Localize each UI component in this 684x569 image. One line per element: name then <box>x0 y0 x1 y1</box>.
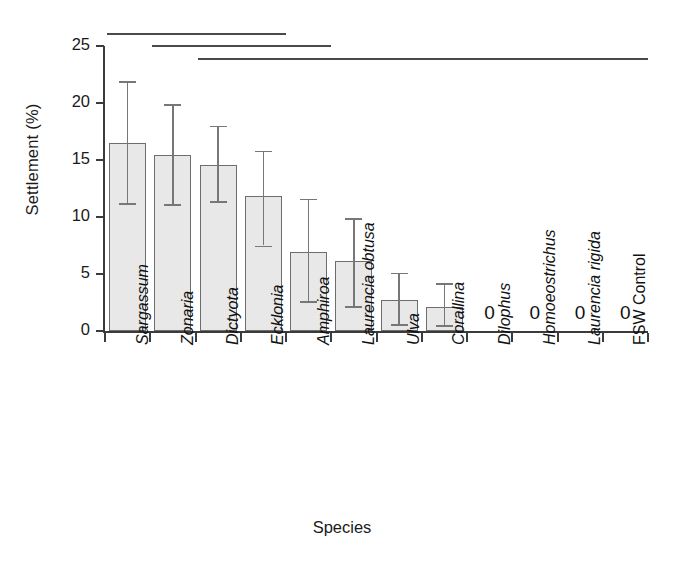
y-axis-title: Settlement (%) <box>23 50 42 270</box>
y-tick-label: 10 <box>56 206 90 225</box>
error-bar-cap-upper <box>119 81 136 83</box>
error-bar-cap-upper <box>210 126 227 128</box>
error-bar-cap-lower <box>255 246 272 248</box>
x-tick-label: FSW Control <box>631 253 649 345</box>
x-tick-label: Corallina <box>450 282 468 345</box>
error-bar-cap-upper <box>300 199 317 201</box>
error-bar-line <box>127 81 129 203</box>
y-tick-label: 20 <box>56 92 90 111</box>
error-bar-cap-upper <box>255 151 272 153</box>
error-bar-cap-upper <box>345 218 362 220</box>
x-tick-label: Ecklonia <box>269 285 287 345</box>
error-bar-cap-upper <box>391 273 408 275</box>
significance-line <box>107 33 286 35</box>
y-tick-label: 5 <box>56 263 90 282</box>
x-tick <box>104 333 106 342</box>
y-tick-label: 15 <box>56 149 90 168</box>
y-tick <box>96 273 104 275</box>
x-tick-label: Dictyota <box>224 287 242 345</box>
error-bar-cap-lower <box>164 204 181 206</box>
x-tick-label: Sargassum <box>134 264 152 345</box>
y-tick <box>96 45 104 47</box>
y-tick <box>96 330 104 332</box>
error-bar-line <box>217 126 219 201</box>
error-bar-line <box>353 218 355 306</box>
x-tick-label: Laurencia obtusa <box>360 222 378 345</box>
x-tick-label: Dilophus <box>496 283 514 345</box>
y-tick-label: 25 <box>56 35 90 54</box>
x-axis-title: Species <box>0 518 684 537</box>
x-tick-label: Zonaria <box>179 291 197 345</box>
error-bar-line <box>444 283 446 325</box>
y-tick <box>96 216 104 218</box>
error-bar-line <box>398 273 400 324</box>
x-tick-label: Laurencia rigida <box>586 231 604 345</box>
error-bar-line <box>263 151 265 246</box>
y-tick-label: 0 <box>56 320 90 339</box>
x-tick-label: Homoeostrichus <box>541 229 559 345</box>
y-tick <box>96 159 104 161</box>
x-tick-label: Amphiroa <box>315 277 333 345</box>
significance-line <box>198 58 648 60</box>
error-bar-cap-upper <box>164 104 181 106</box>
error-bar-line <box>308 199 310 302</box>
y-tick <box>96 102 104 104</box>
settlement-bar-chart: Settlement (%) Species 0510152025 0000 S… <box>0 0 684 569</box>
x-tick-label: Ulva <box>405 313 423 345</box>
error-bar-cap-lower <box>119 203 136 205</box>
error-bar-line <box>172 104 174 204</box>
significance-line <box>152 45 331 47</box>
error-bar-cap-lower <box>210 201 227 203</box>
y-axis-line <box>103 46 105 333</box>
